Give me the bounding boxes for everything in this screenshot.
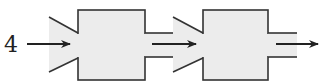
stage-2: [173, 10, 297, 80]
stage-2-outlet-fill: [268, 33, 297, 57]
stage-1-box: [78, 10, 145, 80]
stage-1: [49, 10, 173, 80]
stage-1-outlet-fill: [145, 33, 173, 57]
stage-2-box: [203, 10, 268, 80]
input-label: 4: [4, 32, 18, 57]
cascade-diagram: 4: [0, 0, 321, 84]
